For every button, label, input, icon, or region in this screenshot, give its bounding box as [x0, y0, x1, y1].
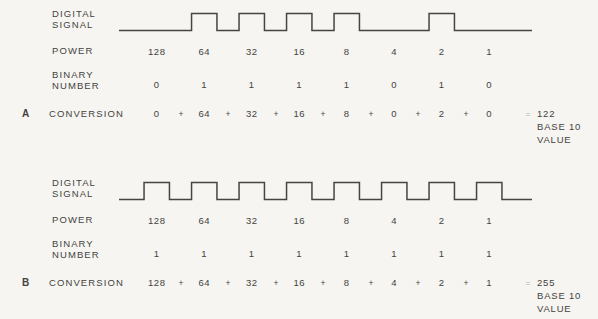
binary-number-label-line1: BINARY [52, 70, 100, 81]
result-value: 122 [537, 107, 581, 120]
power-value: 64 [181, 46, 229, 57]
conversion-term: 8 [323, 277, 371, 288]
conversion-term: 0 [466, 108, 514, 119]
power-value: 16 [276, 46, 324, 57]
binary-digit: 1 [133, 248, 181, 259]
binary-digit: 0 [371, 79, 419, 90]
binary-digit: 0 [466, 79, 514, 90]
plus-sign: + [274, 109, 279, 119]
result-value-label: VALUE [537, 133, 581, 146]
power-value: 2 [418, 46, 466, 57]
plus-sign: + [464, 109, 469, 119]
power-values-row: 128 64 32 16 8 4 2 1 [133, 46, 513, 57]
binary-digit: 1 [228, 79, 276, 90]
section-letter: A [22, 108, 30, 119]
binary-digit: 1 [418, 248, 466, 259]
conversion-term: 64 [181, 277, 229, 288]
equals-sign: = [526, 278, 531, 288]
conversion-label: CONVERSION [49, 277, 124, 288]
power-value: 2 [418, 215, 466, 226]
binary-digit: 1 [418, 79, 466, 90]
power-value: 8 [323, 215, 371, 226]
result-base-label: BASE 10 [537, 289, 581, 302]
plus-sign: + [179, 109, 184, 119]
plus-sign: + [226, 109, 231, 119]
power-value: 4 [371, 215, 419, 226]
power-value: 8 [323, 46, 371, 57]
power-value: 4 [371, 46, 419, 57]
conversion-term: 128 [133, 277, 181, 288]
power-value: 128 [133, 46, 181, 57]
figure-binary-to-base10-conversion: DIGITAL SIGNAL POWER 128 64 32 16 8 4 2 … [0, 0, 598, 319]
binary-digits-row: 1 1 1 1 1 1 1 1 [133, 248, 513, 259]
base10-result: 122 BASE 10 VALUE [537, 107, 581, 146]
digital-signal-label-line2: SIGNAL [52, 189, 96, 200]
digital-signal-label-line2: SIGNAL [52, 20, 96, 31]
base10-result: 255 BASE 10 VALUE [537, 276, 581, 315]
binary-digit: 1 [276, 248, 324, 259]
digital-signal-label-line1: DIGITAL [52, 178, 96, 189]
section-letter: B [22, 277, 30, 288]
power-value: 64 [181, 215, 229, 226]
plus-sign: + [226, 278, 231, 288]
plus-sign: + [464, 278, 469, 288]
conversion-term: 2 [418, 277, 466, 288]
conversion-term: 64 [181, 108, 229, 119]
conversion-term: 16 [276, 108, 324, 119]
plus-sign: + [321, 109, 326, 119]
conversion-term: 32 [228, 277, 276, 288]
binary-digit: 1 [371, 248, 419, 259]
binary-digit: 0 [133, 79, 181, 90]
result-value-label: VALUE [537, 302, 581, 315]
conversion-term: 0 [133, 108, 181, 119]
binary-number-label: BINARY NUMBER [52, 239, 100, 260]
conversion-term: 16 [276, 277, 324, 288]
power-value: 32 [228, 215, 276, 226]
plus-sign: + [274, 278, 279, 288]
binary-digit: 1 [228, 248, 276, 259]
binary-digit: 1 [276, 79, 324, 90]
conversion-term: 32 [228, 108, 276, 119]
conversion-term: 8 [323, 108, 371, 119]
binary-digit: 1 [181, 248, 229, 259]
result-base-label: BASE 10 [537, 120, 581, 133]
power-value: 1 [466, 215, 514, 226]
power-values-row: 128 64 32 16 8 4 2 1 [133, 215, 513, 226]
binary-number-label-line1: BINARY [52, 239, 100, 250]
plus-sign: + [179, 278, 184, 288]
binary-number-label: BINARY NUMBER [52, 70, 100, 91]
binary-digits-row: 0 1 1 1 1 0 1 0 [133, 79, 513, 90]
binary-digit: 1 [466, 248, 514, 259]
power-value: 16 [276, 215, 324, 226]
power-label: POWER [52, 215, 93, 226]
conversion-label: CONVERSION [49, 108, 124, 119]
power-label: POWER [52, 46, 93, 57]
plus-sign: + [369, 109, 374, 119]
binary-digit: 1 [181, 79, 229, 90]
binary-number-label-line2: NUMBER [52, 250, 100, 261]
power-value: 1 [466, 46, 514, 57]
plus-sign: + [416, 278, 421, 288]
conversion-term: 4 [371, 277, 419, 288]
plus-sign: + [369, 278, 374, 288]
power-value: 32 [228, 46, 276, 57]
binary-number-label-line2: NUMBER [52, 81, 100, 92]
result-value: 255 [537, 276, 581, 289]
digital-signal-label: DIGITAL SIGNAL [52, 9, 96, 30]
conversion-term: 1 [466, 277, 514, 288]
section-b: DIGITAL SIGNAL POWER 128 64 32 16 8 4 2 … [0, 169, 598, 319]
conversion-term: 0 [371, 108, 419, 119]
digital-signal-label: DIGITAL SIGNAL [52, 178, 96, 199]
power-value: 128 [133, 215, 181, 226]
equals-sign: = [526, 109, 531, 119]
digital-signal-label-line1: DIGITAL [52, 9, 96, 20]
conversion-term: 2 [418, 108, 466, 119]
plus-sign: + [321, 278, 326, 288]
plus-sign: + [416, 109, 421, 119]
binary-digit: 1 [323, 248, 371, 259]
binary-digit: 1 [323, 79, 371, 90]
section-a: DIGITAL SIGNAL POWER 128 64 32 16 8 4 2 … [0, 0, 598, 150]
